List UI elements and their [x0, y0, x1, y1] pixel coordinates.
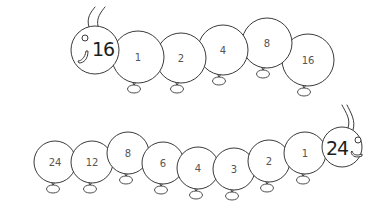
segment: 4	[177, 147, 219, 199]
segment-number: 4	[195, 163, 201, 174]
segment-number: 2	[266, 156, 272, 167]
foot-icon	[190, 191, 203, 199]
eye-icon	[82, 35, 88, 41]
caterpillar-bottom: 241286432124	[34, 105, 362, 200]
foot-icon	[261, 184, 274, 192]
foot-icon	[171, 85, 184, 93]
antenna-icon	[88, 7, 95, 27]
segment-number: 24	[49, 157, 62, 168]
foot-icon	[226, 192, 239, 200]
caterpillar-head: 16	[71, 7, 119, 74]
segment: 1	[112, 31, 164, 93]
foot-icon	[257, 70, 270, 78]
foot-icon	[120, 176, 133, 184]
eye-icon	[355, 137, 361, 143]
segment-number: 2	[178, 53, 184, 64]
segment: 12	[71, 141, 113, 193]
segment-number: 3	[231, 164, 237, 175]
segment: 2	[248, 140, 290, 192]
foot-icon	[213, 77, 226, 85]
foot-icon	[128, 85, 141, 93]
segment-number: 1	[302, 148, 308, 159]
segment-number: 8	[125, 148, 131, 159]
segment: 1	[284, 132, 326, 184]
segment-number: 8	[264, 38, 270, 49]
segment-number: 4	[220, 45, 226, 56]
segment-number: 6	[160, 158, 166, 169]
foot-icon	[47, 185, 60, 193]
segment: 24	[34, 141, 76, 193]
segment-number: 12	[86, 157, 99, 168]
caterpillar-head: 24	[322, 105, 362, 167]
head-number: 24	[326, 137, 349, 159]
foot-icon	[298, 88, 311, 96]
foot-icon	[297, 176, 310, 184]
segment-number: 1	[135, 52, 141, 63]
caterpillar-diagram: 16842116 241286432124	[0, 0, 369, 216]
caterpillar-top: 16842116	[71, 7, 334, 96]
antenna-icon	[342, 105, 349, 128]
segment-number: 16	[302, 55, 315, 66]
head-number: 16	[92, 38, 114, 60]
antenna-icon	[98, 7, 105, 26]
foot-icon	[84, 185, 97, 193]
foot-icon	[155, 186, 168, 194]
